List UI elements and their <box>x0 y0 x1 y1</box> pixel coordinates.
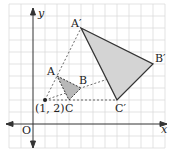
enlargement-diagram: A′ B′ C′ A B C (1, 2) O x y <box>0 0 180 157</box>
label-a: A <box>46 65 56 78</box>
label-b-prime: B′ <box>155 52 166 65</box>
label-y-axis: y <box>37 7 45 20</box>
label-c-prime: C′ <box>115 102 126 115</box>
label-c: C <box>65 102 73 115</box>
label-x-axis: x <box>161 123 168 136</box>
label-center: (1, 2) <box>35 102 65 115</box>
label-b: B <box>79 74 87 87</box>
label-origin: O <box>22 124 31 137</box>
label-a-prime: A′ <box>70 17 82 30</box>
